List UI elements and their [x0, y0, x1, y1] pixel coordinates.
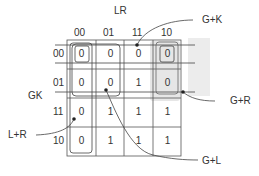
row-label: 11: [53, 107, 63, 117]
cell: 1: [153, 107, 182, 117]
gr-callout-dot: [181, 90, 185, 94]
kmap-graphics: [0, 0, 259, 176]
col-label: 00: [74, 28, 85, 38]
cell: 0: [67, 78, 96, 88]
row-label: 00: [53, 49, 64, 59]
col-label: 11: [132, 28, 142, 38]
cell: 0: [153, 78, 182, 88]
cell: 1: [153, 136, 182, 146]
cell: 0: [67, 136, 96, 146]
cell: 0: [67, 49, 96, 59]
cell: 1: [124, 107, 153, 117]
cell: 0: [153, 49, 182, 59]
annotation-gr: G+R: [230, 96, 251, 106]
cell: 1: [124, 136, 153, 146]
annotation-gk: G+K: [202, 15, 222, 25]
cell: 0: [96, 49, 125, 59]
col-variable-label: LR: [114, 6, 127, 16]
row-label: 10: [53, 136, 64, 146]
cell: 1: [124, 78, 153, 88]
col-label: 01: [103, 28, 114, 38]
cell: 1: [96, 136, 125, 146]
lr-callout-dot: [72, 117, 76, 121]
cell: 0: [124, 49, 153, 59]
row-label: 01: [53, 78, 64, 88]
col-label: 10: [161, 28, 172, 38]
gr-shade: [188, 38, 210, 96]
cell: 1: [96, 107, 125, 117]
gk-callout-dot: [135, 43, 139, 47]
row-variable-label: GK: [28, 91, 42, 101]
gl-callout-dot: [104, 88, 108, 92]
annotation-gl: G+L: [202, 156, 221, 166]
cell: 0: [96, 78, 125, 88]
cell: 0: [67, 107, 96, 117]
annotation-lr: L+R: [8, 130, 27, 140]
